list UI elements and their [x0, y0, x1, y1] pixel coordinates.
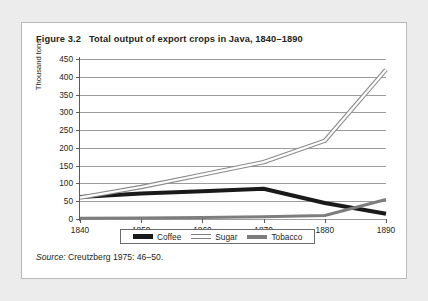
plot-region: 050100150200250300350400450 184018501860… [80, 59, 386, 219]
y-tick-label: 300 [59, 107, 73, 117]
series-line-sugar-outline [80, 70, 386, 198]
y-tick-label: 350 [59, 90, 73, 100]
source-label: Source: [36, 252, 66, 262]
source-text: Creutzberg 1975: 46–50. [66, 252, 163, 262]
y-tick-label: 400 [59, 72, 73, 82]
x-tick-label: 1840 [71, 225, 89, 235]
figure-panel: Figure 3.2 Total output of export crops … [21, 22, 407, 279]
source-note: Source: Creutzberg 1975: 46–50. [36, 252, 163, 262]
coffee-swatch [133, 234, 153, 239]
y-tick-label: 50 [64, 196, 73, 206]
series-line-sugar [80, 70, 386, 198]
x-tick [386, 219, 387, 223]
legend-label-coffee: Coffee [157, 232, 181, 242]
y-tick-label: 100 [59, 178, 73, 188]
sugar-swatch [191, 234, 211, 239]
y-tick-label: 0 [68, 214, 73, 224]
series-line-tobacco [80, 199, 386, 218]
legend-label-sugar: Sugar [215, 232, 237, 242]
legend-item-coffee: Coffee [133, 232, 181, 242]
chart-area: Thousand tons 05010015020025030035040045… [36, 51, 394, 247]
y-tick-label: 450 [59, 54, 73, 64]
legend-label-tobacco: Tobacco [271, 232, 302, 242]
series-lines [80, 59, 386, 221]
y-tick-label: 250 [59, 125, 73, 135]
tobacco-swatch [247, 235, 267, 239]
chart-legend: Coffee Sugar Tobacco [120, 229, 315, 244]
y-tick-label: 150 [59, 161, 73, 171]
legend-item-tobacco: Tobacco [247, 232, 302, 242]
y-axis-title: Thousand tons [34, 25, 43, 105]
x-tick-label: 1880 [316, 225, 334, 235]
y-tick-label: 200 [59, 143, 73, 153]
legend-item-sugar: Sugar [191, 232, 237, 242]
x-tick-label: 1890 [377, 225, 395, 235]
figure-title: Figure 3.2 Total output of export crops … [36, 34, 303, 44]
